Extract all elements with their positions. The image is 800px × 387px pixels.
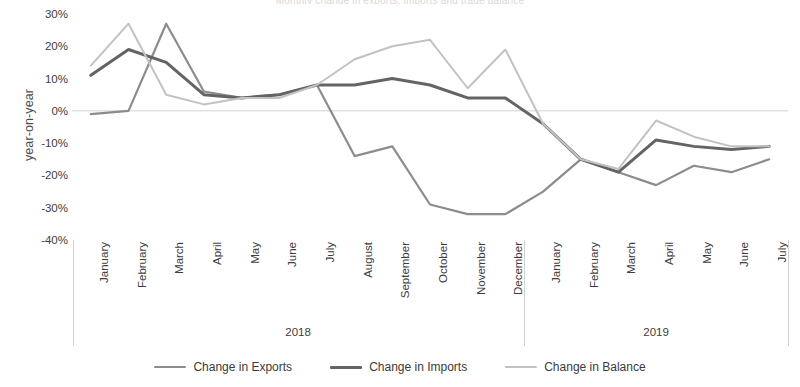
x-axis-label-5: June bbox=[285, 242, 299, 322]
legend-label: Change in Exports bbox=[193, 360, 292, 374]
chart-container: Monthly change in exports, imports and t… bbox=[0, 0, 800, 387]
x-axis-label-1: February bbox=[135, 242, 149, 322]
x-axis-label-3: April bbox=[210, 242, 224, 322]
x-axis-label-0: January bbox=[97, 242, 111, 322]
x-axis-label-10: November bbox=[474, 242, 488, 322]
x-axis-label-17: June bbox=[737, 242, 751, 322]
x-axis-category-labels: JanuaryFebruaryMarchAprilMayJuneJulyAugu… bbox=[72, 242, 788, 322]
y-axis-tick-labels: 30%20%10%0%-10%-20%-30%-40% bbox=[24, 0, 68, 387]
y-axis-tick-neg10: -10% bbox=[24, 137, 68, 149]
x-axis-label-4: May bbox=[248, 242, 262, 322]
plot-area bbox=[72, 14, 788, 240]
x-axis-label-12: January bbox=[549, 242, 563, 322]
series-line-change-in-balance[interactable] bbox=[91, 24, 769, 169]
x-axis-group-labels: 20182019 bbox=[72, 322, 788, 348]
chart-title: Monthly change in exports, imports and t… bbox=[0, 0, 800, 4]
x-axis-group-label-2019: 2019 bbox=[643, 326, 669, 338]
legend-item-change-in-balance[interactable]: Change in Balance bbox=[505, 360, 645, 374]
y-axis-tick-neg40: -40% bbox=[24, 234, 68, 246]
series-line-change-in-exports[interactable] bbox=[91, 24, 769, 214]
legend-swatch-icon bbox=[505, 366, 537, 368]
y-axis-tick-0: 0% bbox=[24, 105, 68, 117]
x-axis-label-2: March bbox=[172, 242, 186, 322]
axis-tick-year-boundary bbox=[524, 240, 525, 346]
x-axis-label-13: February bbox=[587, 242, 601, 322]
legend-label: Change in Balance bbox=[544, 360, 645, 374]
y-axis-tick-20: 20% bbox=[24, 40, 68, 52]
x-axis-label-8: September bbox=[398, 242, 412, 322]
x-axis-label-14: March bbox=[624, 242, 638, 322]
y-axis-tick-30: 30% bbox=[24, 8, 68, 20]
legend-swatch-icon bbox=[154, 366, 186, 368]
legend-item-change-in-imports[interactable]: Change in Imports bbox=[330, 360, 467, 374]
y-axis-tick-neg30: -30% bbox=[24, 202, 68, 214]
y-axis-tick-10: 10% bbox=[24, 73, 68, 85]
axis-tick-start bbox=[73, 240, 74, 346]
legend-label: Change in Imports bbox=[369, 360, 467, 374]
legend-swatch-icon bbox=[330, 366, 362, 369]
y-axis-tick-neg20: -20% bbox=[24, 169, 68, 181]
x-axis-label-15: April bbox=[662, 242, 676, 322]
x-axis-label-6: July bbox=[323, 242, 337, 322]
legend-item-change-in-exports[interactable]: Change in Exports bbox=[154, 360, 292, 374]
axis-tick-end bbox=[788, 240, 789, 346]
x-axis-group-label-2018: 2018 bbox=[285, 326, 311, 338]
series-canvas bbox=[72, 14, 788, 240]
x-axis-label-7: August bbox=[361, 242, 375, 322]
chart-legend: Change in ExportsChange in ImportsChange… bbox=[0, 360, 800, 374]
x-axis-label-16: May bbox=[700, 242, 714, 322]
x-axis-label-9: October bbox=[436, 242, 450, 322]
